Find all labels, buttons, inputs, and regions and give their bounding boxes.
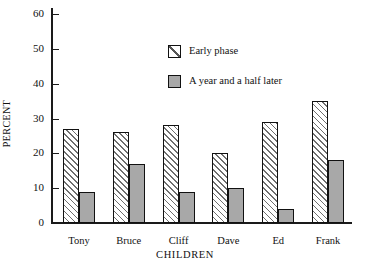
y-tick-label: 20 [18, 147, 44, 158]
legend-item-early-phase: Early phase [168, 44, 282, 58]
bar [328, 160, 344, 223]
bar [63, 129, 79, 223]
legend-swatch-solid-icon [168, 75, 181, 88]
bar [179, 192, 195, 223]
bar [113, 132, 129, 223]
bar-group [163, 8, 195, 223]
bar [228, 188, 244, 223]
chart-legend: Early phase A year and a half later [168, 44, 282, 104]
y-tick-label: 60 [18, 8, 44, 19]
bar [163, 125, 179, 223]
bar-group [113, 8, 145, 223]
bar-group [312, 8, 344, 223]
bar-group [262, 8, 294, 223]
y-tick [53, 223, 59, 224]
bar [212, 153, 228, 223]
bar [129, 164, 145, 223]
y-axis-title: PERCENT [1, 100, 12, 147]
y-tick-label: 30 [18, 113, 44, 124]
bar [79, 192, 95, 223]
legend-label: A year and a half later [189, 75, 282, 87]
x-axis-title: CHILDREN [0, 249, 370, 260]
bar [262, 122, 278, 223]
y-tick-label: 0 [18, 217, 44, 228]
y-tick-label: 40 [18, 78, 44, 89]
legend-label: Early phase [189, 45, 238, 57]
y-tick-label: 10 [18, 182, 44, 193]
bar [312, 101, 328, 223]
y-tick-label: 50 [18, 43, 44, 54]
legend-item-later: A year and a half later [168, 74, 282, 88]
legend-swatch-hatched-icon [168, 45, 181, 58]
bar-groups: TonyBruceCliffDaveEdFrank [53, 8, 352, 223]
bar-group [63, 8, 95, 223]
bar-chart: PERCENT CHILDREN 0102030405060 TonyBruce… [0, 0, 370, 267]
x-tick-label: Frank [298, 235, 358, 246]
bar-group [212, 8, 244, 223]
bar [278, 209, 294, 223]
